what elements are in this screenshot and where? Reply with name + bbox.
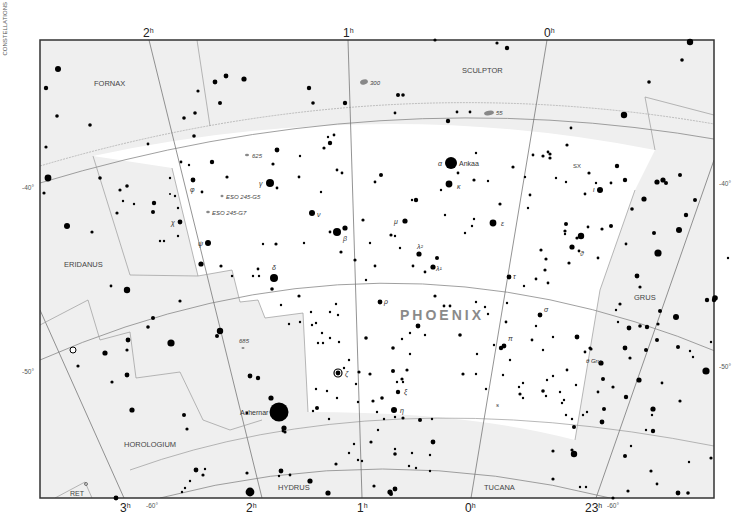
svg-text:3h: 3h bbox=[120, 501, 131, 515]
svg-text:2h: 2h bbox=[143, 26, 154, 40]
svg-text:0h: 0h bbox=[544, 26, 555, 40]
svg-text:23h: 23h bbox=[585, 501, 602, 515]
svg-text:s: s bbox=[496, 402, 499, 408]
svg-text:η: η bbox=[400, 407, 404, 415]
galaxy-ngc685[interactable] bbox=[242, 347, 245, 349]
star-achernar[interactable] bbox=[270, 403, 289, 422]
dso-label-55: 55 bbox=[496, 110, 503, 116]
constellation-label: TUCANA bbox=[484, 483, 515, 492]
svg-text:λ¹: λ¹ bbox=[435, 265, 442, 272]
galaxy-ngc625[interactable] bbox=[245, 154, 249, 156]
svg-text:-50°: -50° bbox=[22, 368, 34, 375]
constellation-label: RET bbox=[70, 490, 85, 497]
dso-label-eso245g7: ESO 245-G7 bbox=[212, 210, 247, 216]
svg-text:1h: 1h bbox=[357, 501, 368, 515]
star-name-ankaa: Ankaa bbox=[459, 160, 479, 167]
svg-text:-50°: -50° bbox=[719, 363, 731, 370]
open-star-marker bbox=[70, 347, 76, 353]
svg-text:ρ: ρ bbox=[383, 298, 388, 306]
constellation-label: GRUS bbox=[634, 293, 656, 302]
phoenix-title: PHOENIX bbox=[400, 307, 484, 323]
svg-text:θ Gru: θ Gru bbox=[586, 358, 602, 364]
star-ankaa[interactable] bbox=[445, 157, 457, 169]
svg-text:1h: 1h bbox=[343, 26, 354, 40]
svg-text:τ: τ bbox=[513, 273, 516, 280]
ra-axis-top: 2h 1h 0h bbox=[143, 26, 555, 40]
constellation-label: SCULPTOR bbox=[462, 66, 503, 75]
svg-text:ψ: ψ bbox=[198, 240, 203, 248]
constellation-label: FORNAX bbox=[94, 79, 125, 88]
svg-text:π: π bbox=[508, 335, 513, 342]
svg-text:γ: γ bbox=[259, 180, 263, 188]
dso-label-eso245g5: ESO 245-G5 bbox=[226, 194, 261, 200]
svg-text:χ: χ bbox=[170, 219, 175, 227]
svg-text:κ: κ bbox=[457, 183, 461, 190]
svg-text:μ: μ bbox=[393, 218, 398, 226]
constellation-label: ERIDANUS bbox=[64, 260, 103, 269]
svg-text:ν: ν bbox=[317, 211, 321, 218]
constellation-label: HYDRUS bbox=[278, 483, 310, 492]
ra-axis-bottom: 3h 2h 1h 0h 23h bbox=[120, 501, 602, 515]
dso-label-685: 685 bbox=[239, 338, 250, 344]
svg-text:β: β bbox=[342, 235, 347, 243]
svg-text:2h: 2h bbox=[246, 501, 257, 515]
svg-text:-40°: -40° bbox=[22, 184, 34, 191]
var-label-sx: SX bbox=[573, 163, 581, 169]
svg-text:-40°: -40° bbox=[719, 180, 731, 187]
galaxy-eso245g5[interactable] bbox=[221, 195, 224, 197]
svg-text:0h: 0h bbox=[465, 501, 476, 515]
svg-text:δ: δ bbox=[272, 264, 276, 271]
galaxy-eso245g7[interactable] bbox=[206, 211, 210, 213]
svg-text:-60°: -60° bbox=[607, 502, 619, 509]
svg-text:λ²: λ² bbox=[416, 243, 423, 250]
svg-text:-60°: -60° bbox=[146, 502, 158, 509]
star-name-achernar: Achernar bbox=[240, 409, 269, 416]
constellation-label: HOROLOGIUM bbox=[124, 440, 176, 449]
dso-label-625: 625 bbox=[252, 153, 263, 159]
star-chart: FORNAX SCULPTOR ERIDANUS GRUS HOROLOGIUM… bbox=[0, 0, 752, 529]
dso-label-300: 300 bbox=[370, 80, 381, 86]
svg-text:φ: φ bbox=[190, 186, 195, 194]
